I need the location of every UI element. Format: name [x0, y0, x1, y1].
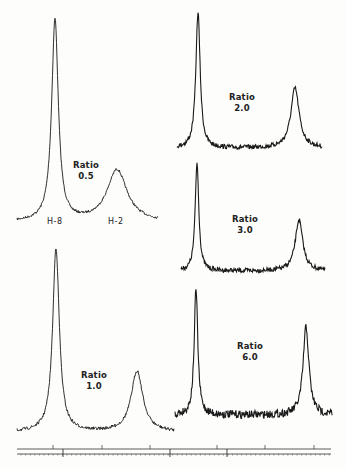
- ratio-value: 1.0: [74, 381, 114, 392]
- spectra-plot: [0, 0, 347, 469]
- ratio-label-6-0: Ratio 6.0: [230, 341, 270, 363]
- ratio-word: Ratio: [225, 214, 265, 225]
- spectrum-trace-D: [17, 249, 174, 431]
- ratio-word: Ratio: [230, 341, 270, 352]
- ratio-word: Ratio: [74, 370, 114, 381]
- ratio-value: 3.0: [225, 225, 265, 236]
- peak-label-h8: H-8: [47, 217, 63, 226]
- ratio-value: 2.0: [222, 103, 262, 114]
- spectrum-trace-A: [17, 18, 158, 220]
- spectrum-trace-B: [177, 13, 322, 149]
- ratio-value: 0.5: [66, 171, 106, 182]
- ratio-value: 6.0: [230, 352, 270, 363]
- ratio-word: Ratio: [66, 160, 106, 171]
- ratio-label-3-0: Ratio 3.0: [225, 214, 265, 236]
- nmr-figure: Ratio 0.5 H-8 H-2 Ratio 2.0 Ratio 3.0 Ra…: [0, 0, 347, 469]
- peak-label-h2: H-2: [108, 217, 124, 226]
- ratio-word: Ratio: [222, 92, 262, 103]
- ratio-label-0-5: Ratio 0.5: [66, 160, 106, 182]
- ratio-label-1-0: Ratio 1.0: [74, 370, 114, 392]
- ratio-label-2-0: Ratio 2.0: [222, 92, 262, 114]
